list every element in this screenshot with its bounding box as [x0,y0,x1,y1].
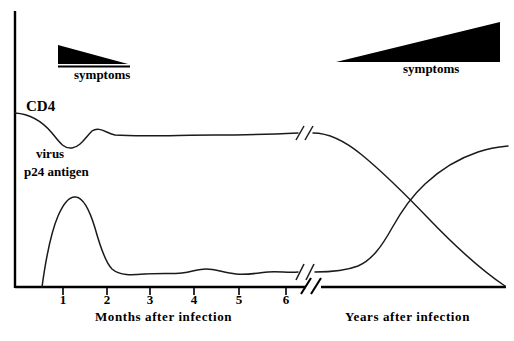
virus-curve-label-line2: p24 antigen [24,165,89,178]
symptoms-label-acute: symptoms [74,68,130,81]
virus-curve-months [42,197,298,287]
symptoms-triangle-late [336,22,500,62]
cd4-curve-label: CD4 [26,99,55,114]
x-tick-label-4: 4 [191,292,198,308]
virus-break-slash-2 [306,264,314,280]
x-tick-label-2: 2 [104,292,111,308]
x-axis-title-months: Months after infection [95,310,232,323]
x-tick-label-5: 5 [236,292,243,308]
x-tick-marks [63,287,286,295]
hiv-natural-history-figure: symptoms symptoms CD4 virus p24 antigen … [0,0,514,341]
x-tick-label-3: 3 [147,292,154,308]
cd4-curve-years [313,133,505,286]
x-axis-title-years: Years after infection [345,310,470,323]
symptoms-label-late: symptoms [403,62,459,75]
cd4-curve-months [15,113,298,148]
virus-curve-years [315,146,508,272]
x-axis-break-slash-2 [311,278,321,294]
virus-curve-label-line1: virus [36,147,64,160]
x-tick-label-1: 1 [60,292,67,308]
x-tick-label-6: 6 [283,292,290,308]
cd4-break-slash-2 [305,126,313,140]
symptoms-triangle-acute [58,45,128,64]
